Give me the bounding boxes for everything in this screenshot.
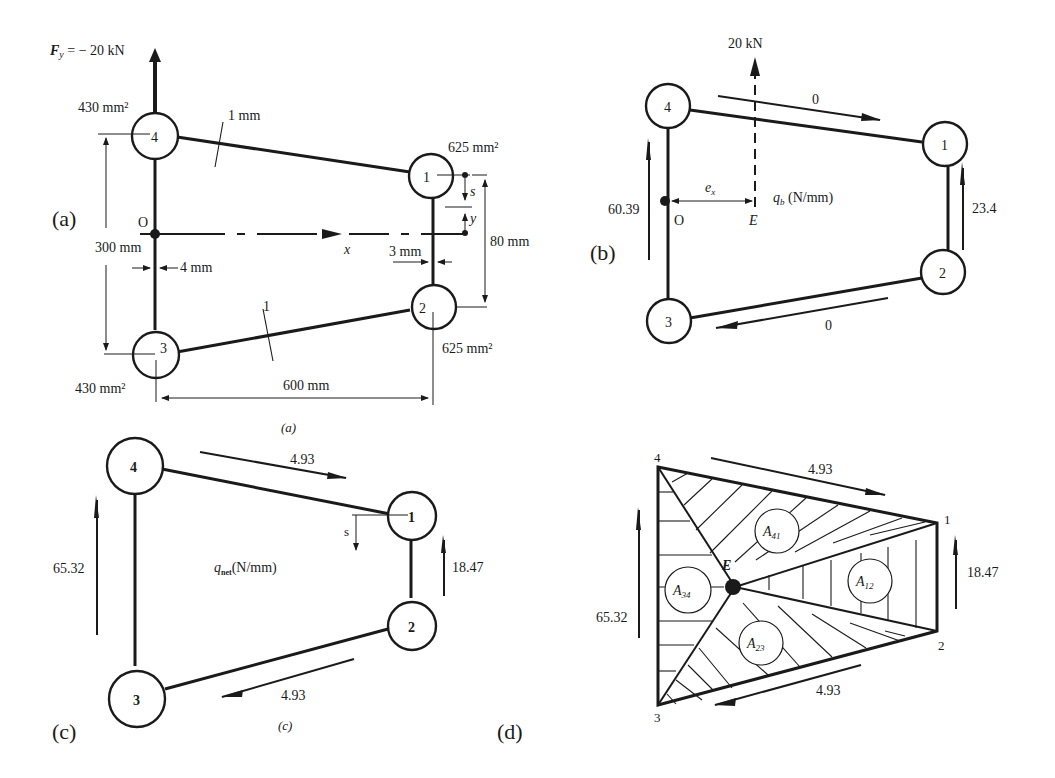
origin-point bbox=[660, 196, 670, 206]
point-E bbox=[725, 579, 741, 595]
s-label: s bbox=[470, 184, 476, 199]
skin-41 bbox=[177, 137, 410, 172]
force-arrow-head-icon bbox=[750, 57, 760, 76]
panel-a: (a) Fy = − 20 kN 4 1 2 3 430 mm² 625 mm²… bbox=[49, 43, 529, 435]
boom-1-label: 1 bbox=[941, 138, 948, 153]
panel-d-label: (d) bbox=[497, 719, 523, 744]
boom-3-label: 3 bbox=[665, 315, 672, 330]
force-label: Fy = − 20 kN bbox=[49, 43, 125, 60]
boom-2-label: 2 bbox=[419, 301, 426, 316]
corner-2-label: 2 bbox=[938, 638, 945, 653]
boom-1 bbox=[409, 154, 453, 198]
panel-c: (c) 4 1 2 3 4.93 4.93 65.32 18.47 s qnet… bbox=[52, 438, 484, 744]
panel-c-caption: (c) bbox=[278, 718, 292, 733]
flow-41-value: 0 bbox=[812, 92, 819, 107]
skin-top-thickness-label: 1 mm bbox=[228, 108, 260, 123]
flow-12-arrowhead-icon bbox=[953, 535, 958, 555]
figure-canvas: (a) Fy = − 20 kN 4 1 2 3 430 mm² 625 mm²… bbox=[0, 0, 1055, 778]
flow-12-arrowhead-icon bbox=[960, 162, 965, 185]
boom-1-label: 1 bbox=[408, 510, 415, 525]
corner-4-label: 4 bbox=[654, 450, 661, 465]
panel-c-label: (c) bbox=[52, 719, 76, 744]
origin-label: O bbox=[674, 213, 684, 228]
width-label: 600 mm bbox=[283, 378, 329, 393]
flow-23-value: 4.93 bbox=[816, 683, 841, 698]
flow-23-value: 4.93 bbox=[281, 688, 306, 703]
flow-41-arrowhead-icon bbox=[861, 113, 881, 121]
flow-41-arrowhead-icon bbox=[327, 472, 347, 479]
panel-d: (d) bbox=[497, 450, 999, 744]
height-right-label: 80 mm bbox=[490, 234, 529, 249]
s-label: s bbox=[344, 524, 349, 539]
panel-b: (b) 4 1 2 3 20 kN 0 0 60.39 23.4 O bbox=[590, 36, 997, 343]
flow-41-value: 4.93 bbox=[808, 462, 833, 477]
boom-3-label: 3 bbox=[160, 341, 167, 356]
height-left-label: 300 mm bbox=[95, 240, 141, 255]
boom-4-label: 4 bbox=[130, 460, 137, 475]
flow-12-value: 18.47 bbox=[967, 565, 999, 580]
qb-label: qb (N/mm) bbox=[773, 190, 833, 207]
flow-23-arrowhead-icon bbox=[714, 698, 736, 706]
web-left-thickness-label: 4 mm bbox=[180, 260, 212, 275]
flow-34-value: 65.32 bbox=[596, 610, 628, 625]
flow-41-arrow bbox=[200, 452, 346, 478]
panel-b-label: (b) bbox=[590, 240, 616, 265]
flow-12-value: 18.47 bbox=[452, 560, 484, 575]
force-label: 20 kN bbox=[728, 36, 763, 51]
origin-label: O bbox=[138, 215, 148, 230]
qnet-label: qnet(N/mm) bbox=[214, 560, 277, 577]
x-axis-arrow-icon bbox=[322, 229, 342, 239]
corner-1-label: 1 bbox=[944, 512, 951, 527]
force-arrow-head-icon bbox=[149, 48, 161, 62]
ex-label: ex bbox=[705, 180, 715, 197]
flow-12-value: 23.4 bbox=[972, 201, 997, 216]
skin-41 bbox=[162, 469, 390, 514]
flow-23-arrowhead-icon bbox=[716, 321, 738, 329]
panel-a-caption: (a) bbox=[281, 420, 296, 435]
area-3-label: 430 mm² bbox=[75, 381, 125, 396]
y-end-point bbox=[462, 230, 468, 236]
flow-41-value: 4.93 bbox=[290, 452, 315, 467]
point-E-label: E bbox=[721, 558, 731, 573]
flow-23-arrow bbox=[716, 298, 888, 328]
x-axis-label: x bbox=[343, 242, 351, 257]
flow-34-value: 60.39 bbox=[608, 202, 640, 217]
flow-34-arrowhead-icon bbox=[646, 138, 651, 160]
shear-centre-label: E bbox=[748, 213, 758, 228]
y-label: y bbox=[468, 211, 477, 226]
skin-23 bbox=[165, 629, 388, 689]
boom-3-label: 3 bbox=[133, 693, 140, 708]
boom-1-label: 1 bbox=[423, 170, 430, 185]
web-right-thickness-label: 3 mm bbox=[389, 244, 421, 259]
flow-12-arrowhead-icon bbox=[441, 535, 446, 553]
boom-4-label: 4 bbox=[151, 130, 158, 145]
area-1-label: 625 mm² bbox=[448, 140, 498, 155]
skin-23 bbox=[177, 310, 410, 352]
area-2-label: 625 mm² bbox=[442, 341, 492, 356]
boom-4-label: 4 bbox=[664, 100, 671, 115]
panel-a-label: (a) bbox=[52, 206, 76, 231]
boom-2-label: 2 bbox=[408, 620, 415, 635]
boom-2-label: 2 bbox=[939, 266, 946, 281]
flow-41-arrowhead-icon bbox=[865, 488, 886, 495]
flow-34-arrowhead-icon bbox=[94, 495, 99, 518]
flow-23-value: 0 bbox=[825, 318, 832, 333]
area-4-label: 430 mm² bbox=[78, 100, 128, 115]
skin-bottom-thickness-label: 1 bbox=[263, 299, 270, 314]
flow-34-value: 65.32 bbox=[53, 561, 85, 576]
s-start-point bbox=[462, 172, 468, 178]
skin-41 bbox=[690, 110, 922, 142]
corner-3-label: 3 bbox=[654, 710, 661, 725]
